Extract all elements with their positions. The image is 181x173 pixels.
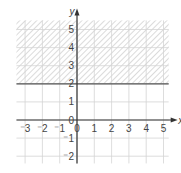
x-tick-label: ⁻3: [20, 123, 31, 134]
x-axis-arrow-icon: [171, 118, 178, 123]
x-axis-label: x: [177, 115, 181, 126]
x-tick-label: ⁻2: [37, 123, 48, 134]
x-tick-label: 1: [92, 123, 98, 134]
y-tick-label: 2: [68, 78, 74, 89]
y-tick-label: 5: [68, 24, 74, 35]
y-tick-label: ⁻2: [63, 151, 74, 162]
y-axis-arrow-icon: [75, 8, 80, 15]
y-tick-label: ⁻1: [63, 133, 74, 144]
x-tick-label: 2: [109, 123, 115, 134]
y-tick-label: 4: [68, 42, 74, 53]
y-tick-label: 3: [68, 60, 74, 71]
y-tick-label: 1: [68, 96, 74, 107]
x-tick-label: 5: [161, 123, 167, 134]
origin-y-label: 0: [68, 115, 74, 126]
x-tick-label: 3: [126, 123, 132, 134]
x-tick-label: 0: [74, 123, 80, 134]
y-axis-label: y: [69, 6, 76, 17]
coordinate-grid-diagram: ⁻3⁻2⁻1012345⁻2⁻1123450xy: [0, 0, 181, 173]
x-tick-label: 4: [143, 123, 149, 134]
